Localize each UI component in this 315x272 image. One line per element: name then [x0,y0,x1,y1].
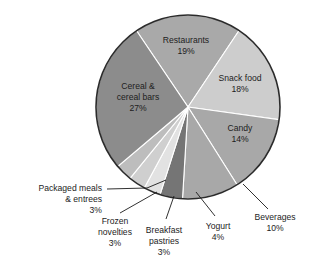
leader-line-packaged-meals [107,188,147,189]
pie-chart-svg: Restaurants 19% Snack food 18% Candy 14%… [0,0,315,272]
slice-label-packaged-meals-name-2: & entrees [65,194,102,204]
slice-label-frozen-novelties-name-1: Frozen [102,216,129,226]
slice-label-packaged-meals-pct: 3% [90,205,103,215]
slice-label-candy-name: Candy [228,123,254,133]
slice-label-yogurt-name: Yogurt [206,221,231,231]
slice-label-snack-food-name: Snack food [219,73,262,83]
slice-label-candy-pct: 14% [231,134,249,144]
slice-label-beverages-name: Beverages [254,212,295,222]
slice-label-frozen-novelties-pct: 3% [109,238,122,248]
slice-label-cereal-name-2: cereal bars [117,92,160,102]
leader-line-frozen-novelties [120,192,157,213]
leader-line-beverages [243,184,268,209]
slice-label-beverages-pct: 10% [266,223,284,233]
slice-label-restaurants-pct: 19% [177,46,195,56]
slice-label-breakfast-pastries-name-1: Breakfast [146,225,183,235]
slice-label-snack-food-pct: 18% [231,84,249,94]
slice-label-packaged-meals-name-1: Packaged meals [38,183,102,193]
slice-label-frozen-novelties-name-2: novelties [98,227,132,237]
slice-label-cereal-name-1: Cereal & [121,81,155,91]
slice-label-cereal-pct: 27% [129,103,147,113]
slice-label-breakfast-pastries-pct: 3% [158,247,171,257]
slice-label-restaurants-name: Restaurants [163,35,209,45]
slice-label-breakfast-pastries-name-2: pastries [149,236,179,246]
leader-line-breakfast-pastries [166,196,174,219]
pie-chart-figure: Restaurants 19% Snack food 18% Candy 14%… [0,0,315,272]
slice-label-yogurt-pct: 4% [212,232,225,242]
